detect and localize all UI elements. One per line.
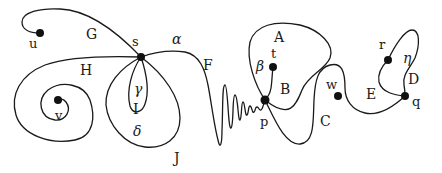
label-curve-c: C: [320, 113, 331, 129]
label-r: r: [379, 37, 386, 52]
curve-h: [14, 57, 141, 142]
label-beta: β: [255, 58, 264, 74]
point-p: [261, 96, 270, 105]
label-curve-e: E: [366, 86, 376, 102]
label-s: s: [132, 34, 139, 49]
curve-j: [106, 57, 180, 147]
label-w: w: [326, 77, 337, 92]
label-curve-d: D: [408, 71, 419, 87]
point-s: [137, 53, 145, 61]
curve-b: [265, 67, 273, 100]
label-t: t: [271, 46, 277, 61]
label-v: v: [54, 108, 63, 123]
label-curve-i: I: [133, 101, 139, 117]
label-curve-j: J: [172, 150, 180, 166]
label-curve-a: A: [273, 29, 285, 45]
label-q: q: [412, 94, 420, 109]
point-t: [269, 63, 277, 71]
point-q: [401, 92, 409, 100]
label-curve-b: B: [280, 81, 290, 97]
point-w: [334, 92, 342, 100]
point-r: [384, 56, 392, 64]
label-curve-g: G: [86, 26, 97, 42]
label-delta: δ: [133, 123, 141, 139]
point-v: [54, 96, 62, 104]
curves-diagram: u s v t p w r q G H I J F A B C D E α β …: [0, 0, 442, 173]
label-curve-f: F: [203, 57, 213, 73]
label-curve-h: H: [80, 62, 92, 78]
curve-e: [379, 60, 405, 96]
label-gamma: γ: [134, 81, 143, 97]
label-eta: η: [403, 50, 412, 66]
label-u: u: [29, 36, 37, 51]
label-p: p: [260, 114, 268, 129]
label-alpha: α: [172, 31, 182, 47]
